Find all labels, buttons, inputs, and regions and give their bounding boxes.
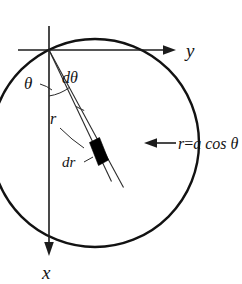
- r-label: r: [50, 110, 57, 127]
- polar-diagram-figure: y x θ dθ r dr r=a cos θ: [0, 0, 242, 284]
- theta-leader-line: [40, 84, 52, 90]
- differential-area-element: [90, 138, 109, 166]
- equation-equals: =: [184, 135, 193, 152]
- diagram-canvas: y x θ dθ r dr r=a cos θ: [0, 0, 242, 284]
- curve-callout-arrowhead: [144, 138, 157, 148]
- theta-label: θ: [24, 74, 32, 93]
- theta-angle-arc: [49, 87, 70, 96]
- y-axis-label: y: [184, 40, 195, 61]
- curve-equation-label: r=a cos θ: [178, 135, 239, 152]
- x-axis-label: x: [41, 262, 51, 283]
- x-axis-arrowhead: [44, 242, 54, 256]
- equation-rhs: a cos θ: [193, 135, 238, 152]
- dtheta-label: dθ: [62, 69, 78, 86]
- y-axis-arrowhead: [163, 45, 176, 55]
- r-leader-line: [60, 128, 84, 148]
- dr-label: dr: [62, 154, 76, 170]
- radial-ray-theta-plus-dtheta: [49, 50, 124, 188]
- dr-leader-line: [84, 157, 93, 162]
